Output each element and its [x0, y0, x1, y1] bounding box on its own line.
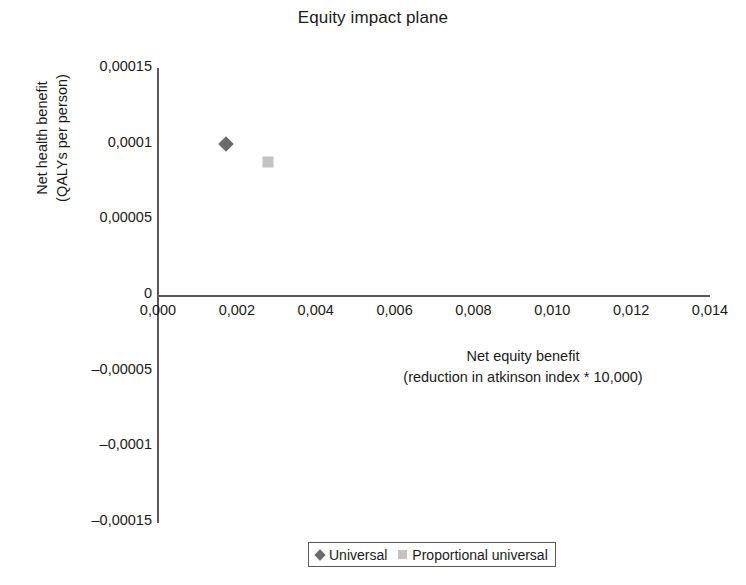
x-axis-line	[158, 295, 710, 297]
data-point-universal	[218, 136, 234, 152]
y-axis-ticks: 0,000150,00010,000050–0,00005–0,0001–0,0…	[48, 0, 152, 585]
y-axis-tick-label: –0,0001	[52, 436, 152, 452]
y-axis-tick-label: 0,00005	[52, 209, 152, 225]
x-axis-title: Net equity benefit (reduction in atkinso…	[300, 346, 746, 388]
x-axis-title-line1: Net equity benefit	[467, 348, 580, 364]
chart-legend: UniversalProportional universal	[308, 542, 556, 567]
y-axis-tick-label: 0	[52, 285, 152, 301]
legend-item-label: Proportional universal	[412, 547, 547, 563]
y-axis-tick-label: –0,00005	[52, 361, 152, 377]
x-axis-tick-label: 0,008	[433, 302, 513, 318]
x-axis-tick-label: 0,012	[591, 302, 671, 318]
legend-item[interactable]: Universal	[316, 547, 387, 563]
y-axis-tick-label: 0,0001	[52, 134, 152, 150]
legend-item-label: Universal	[329, 547, 387, 563]
x-axis-tick-label: 0,000	[118, 302, 198, 318]
square-marker-icon	[398, 550, 407, 559]
x-axis-tick-label: 0,004	[276, 302, 356, 318]
equity-impact-plane-chart: Equity impact plane Net health benefit (…	[0, 0, 746, 585]
x-axis-tick-label: 0,002	[197, 302, 277, 318]
y-axis-tick-label: –0,00015	[52, 512, 152, 528]
x-axis-title-line2: (reduction in atkinson index * 10,000)	[403, 369, 642, 385]
data-point-proportional-universal	[262, 156, 273, 167]
x-axis-tick-label: 0,010	[512, 302, 592, 318]
legend-item[interactable]: Proportional universal	[398, 547, 547, 563]
y-axis-tick-label: 0,00015	[52, 58, 152, 74]
diamond-marker-icon	[314, 549, 325, 560]
x-axis-tick-label: 0,006	[355, 302, 435, 318]
x-axis-tick-label: 0,014	[670, 302, 746, 318]
